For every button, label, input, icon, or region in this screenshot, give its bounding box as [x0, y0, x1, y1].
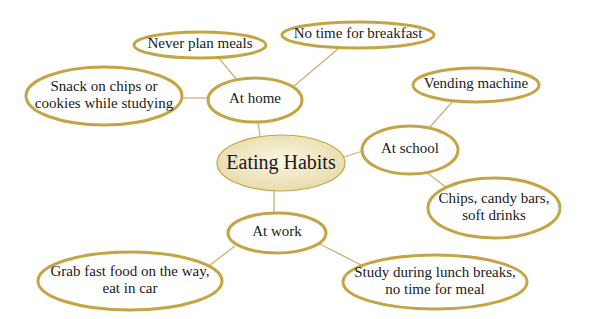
center-node-label: Eating Habits [226, 151, 336, 174]
node-label-study-lunch: Study during lunch breaks, [354, 264, 516, 280]
node-label-chips-candy: soft drinks [462, 207, 526, 223]
node-never-plan-meals: Never plan meals [134, 32, 266, 58]
node-at-work: At work [228, 213, 326, 253]
edge-at-home-to-never-plan-meals [218, 57, 237, 80]
node-snack-chips: Snack on chips orcookies while studying [26, 67, 182, 125]
node-no-time-breakfast: No time for breakfast [282, 22, 434, 48]
node-study-lunch: Study during lunch breaks,no time for me… [343, 255, 527, 309]
node-vending-machine: Vending machine [413, 68, 539, 102]
edge-at-work-to-grab-fast-food [210, 246, 235, 265]
edge-at-school-to-vending-machine [430, 101, 453, 127]
node-label-snack-chips: cookies while studying [35, 95, 174, 111]
node-grab-fast-food: Grab fast food on the way,eat in car [38, 252, 222, 310]
eating-habits-mind-map: At homeAt schoolAt workNever plan mealsN… [0, 0, 589, 319]
node-chips-candy: Chips, candy bars,soft drinks [428, 178, 560, 238]
node-label-snack-chips: Snack on chips or [50, 78, 157, 94]
node-at-school: At school [362, 126, 458, 174]
node-label-at-work: At work [252, 223, 302, 239]
node-label-chips-candy: Chips, candy bars, [439, 190, 550, 206]
node-label-grab-fast-food: eat in car [103, 280, 158, 296]
node-label-grab-fast-food: Grab fast food on the way, [51, 263, 210, 279]
node-at-home: At home [208, 78, 302, 122]
node-label-study-lunch: no time for meal [385, 281, 485, 297]
node-label-no-time-breakfast: No time for breakfast [294, 25, 424, 41]
edge-center-to-at-school [344, 151, 363, 157]
node-label-at-home: At home [229, 90, 281, 106]
center-node: Eating Habits [217, 135, 345, 191]
edge-center-to-at-home [258, 122, 260, 136]
node-label-at-school: At school [381, 140, 439, 156]
node-label-vending-machine: Vending machine [424, 75, 529, 91]
edge-at-home-to-no-time-breakfast [293, 48, 339, 87]
edge-at-school-to-chips-candy [426, 172, 447, 188]
node-label-never-plan-meals: Never plan meals [148, 35, 253, 51]
